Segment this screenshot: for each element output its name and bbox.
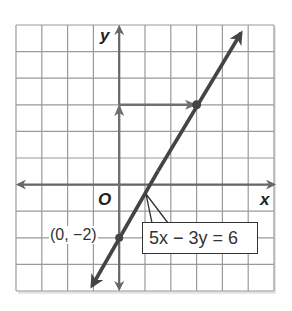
y-axis-label: y <box>100 26 109 46</box>
equation-label: 5x − 3y = 6 <box>142 222 258 254</box>
coordinate-graph <box>0 0 292 311</box>
x-axis-label: x <box>260 190 269 210</box>
point-3-3 <box>192 100 201 109</box>
point-0-neg2 <box>115 234 123 242</box>
origin-label: O <box>98 190 111 210</box>
point-label: (0, −2) <box>49 226 98 244</box>
